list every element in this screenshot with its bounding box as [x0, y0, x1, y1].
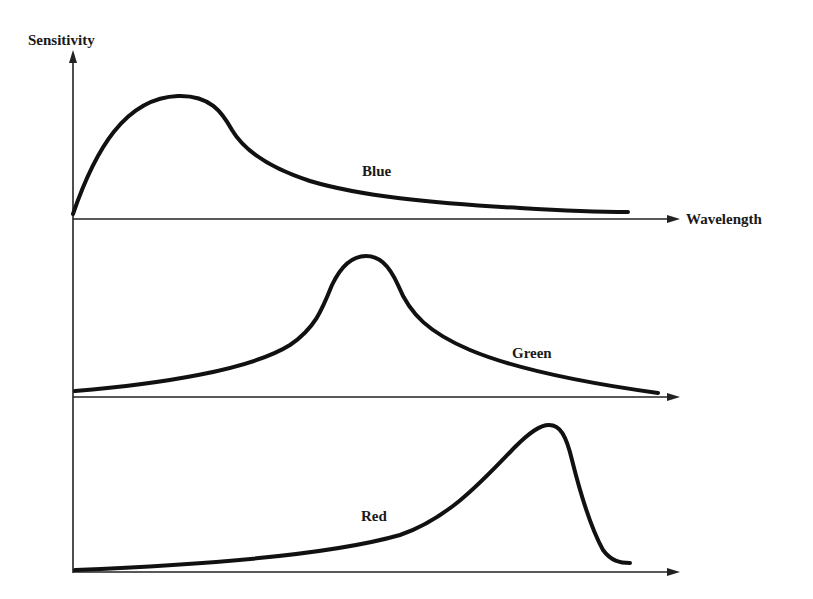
red-curve-label: Red [361, 508, 387, 524]
x-axis-middle-arrow-icon [667, 393, 680, 401]
cone-sensitivity-diagram: Sensitivity Wavelength Blue Green Red [0, 0, 813, 599]
green-curve-label: Green [512, 345, 552, 361]
y-axis-label: Sensitivity [28, 32, 95, 48]
y-axis-arrow-icon [69, 50, 77, 63]
green-curve [75, 256, 658, 393]
blue-curve-label: Blue [362, 163, 392, 179]
blue-curve [73, 96, 628, 214]
red-curve [75, 425, 630, 570]
x-axis-bottom-arrow-icon [667, 568, 680, 576]
x-axis-label: Wavelength [686, 211, 762, 227]
x-axis-top-arrow-icon [667, 215, 680, 223]
